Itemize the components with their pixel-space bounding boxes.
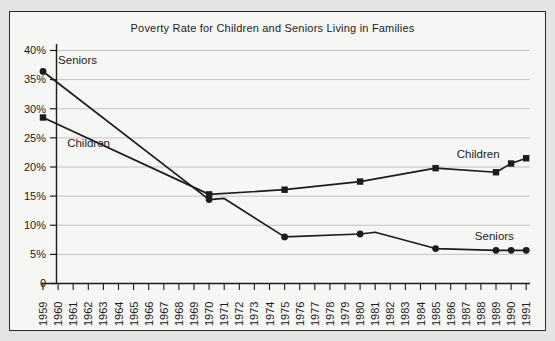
x-tick-label: 1978 <box>324 302 336 326</box>
x-tick-label: 1971 <box>218 302 230 326</box>
x-tick-label: 1982 <box>384 302 396 326</box>
x-tick-label: 1976 <box>294 302 306 326</box>
series-line-seniors <box>43 71 526 250</box>
x-tick-label: 1986 <box>445 302 457 326</box>
x-tick-label: 1985 <box>430 302 442 326</box>
y-tick-label: 40% <box>24 44 46 56</box>
series-line-children <box>43 117 526 194</box>
marker-children <box>357 178 363 184</box>
marker-children <box>432 165 438 171</box>
series-label-children: Children <box>457 148 500 160</box>
series-label-children: Children <box>67 137 110 149</box>
y-tick-label: 5% <box>30 248 46 260</box>
x-tick-label: 1966 <box>143 302 155 326</box>
marker-seniors <box>357 231 364 238</box>
series-label-seniors: Seniors <box>475 230 514 242</box>
y-tick-label: 35% <box>24 73 46 85</box>
x-tick-label: 1964 <box>113 302 125 326</box>
x-tick-label: 1967 <box>158 302 170 326</box>
marker-children <box>206 191 212 197</box>
x-tick-label: 1979 <box>339 302 351 326</box>
y-tick-label: 30% <box>24 103 46 115</box>
marker-seniors <box>40 68 47 75</box>
x-tick-label: 1973 <box>248 302 260 326</box>
x-tick-label: 1984 <box>415 302 427 326</box>
x-tick-label: 1989 <box>490 302 502 326</box>
x-tick-label: 1960 <box>52 302 64 326</box>
poverty-rate-chart: Poverty Rate for Children and Seniors Li… <box>0 0 555 341</box>
x-tick-label: 1975 <box>279 302 291 326</box>
x-tick-label: 1987 <box>460 302 472 326</box>
x-tick-label: 1990 <box>505 302 517 326</box>
x-tick-label: 1980 <box>354 302 366 326</box>
marker-children <box>281 187 287 193</box>
marker-children <box>523 155 529 161</box>
x-tick-label: 1959 <box>37 302 49 326</box>
y-tick-label: 20% <box>24 161 46 173</box>
y-tick-label: 25% <box>24 132 46 144</box>
series-label-seniors: Seniors <box>58 54 97 66</box>
marker-children <box>40 114 46 120</box>
x-tick-label: 1970 <box>203 302 215 326</box>
marker-seniors <box>281 234 288 241</box>
x-tick-label: 1977 <box>309 302 321 326</box>
x-tick-label: 1969 <box>188 302 200 326</box>
x-tick-label: 1983 <box>399 302 411 326</box>
x-tick-label: 1965 <box>128 302 140 326</box>
x-tick-label: 1981 <box>369 302 381 326</box>
y-tick-label: 15% <box>24 190 46 202</box>
x-tick-label: 1961 <box>67 302 79 326</box>
marker-seniors <box>508 247 515 254</box>
x-tick-label: 1963 <box>97 302 109 326</box>
x-tick-label: 1991 <box>520 302 532 326</box>
marker-children <box>493 169 499 175</box>
marker-seniors <box>523 247 530 254</box>
y-tick-label: 10% <box>24 219 46 231</box>
x-tick-label: 1968 <box>173 302 185 326</box>
x-tick-label: 1974 <box>264 302 276 326</box>
marker-seniors <box>493 247 500 254</box>
chart-canvas: 40%35%30%25%20%15%10%5%01959196019611962… <box>0 0 555 341</box>
x-tick-label: 1962 <box>82 302 94 326</box>
marker-children <box>508 160 514 166</box>
marker-seniors <box>432 245 439 252</box>
x-tick-label: 1972 <box>233 302 245 326</box>
x-tick-label: 1988 <box>475 302 487 326</box>
